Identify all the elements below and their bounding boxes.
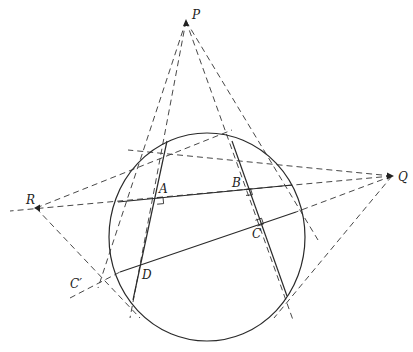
point-markers [34,19,394,212]
labels: P Q R A B C D C′ [25,8,408,291]
line-AB [118,185,292,202]
line-DC [120,212,296,272]
dashed-line-3 [186,21,318,240]
label-C-prime: C′ [70,277,82,291]
dashed-line-2 [186,21,293,320]
geometry-diagram: P Q R A B C D C′ [0,0,413,352]
arrow-P-icon [183,19,189,26]
label-R: R [25,193,35,207]
dashed-lines [10,21,392,320]
label-D: D [141,268,152,282]
label-Q: Q [398,170,408,184]
dashed-line-6 [274,176,392,318]
label-B: B [231,176,241,190]
dashed-line-9 [36,208,140,318]
label-C: C [252,227,261,241]
dashed-line-5 [128,150,392,176]
label-P: P [191,8,201,22]
dashed-line-8 [36,130,232,208]
right-angle-marks [157,189,264,226]
label-A: A [158,182,168,196]
